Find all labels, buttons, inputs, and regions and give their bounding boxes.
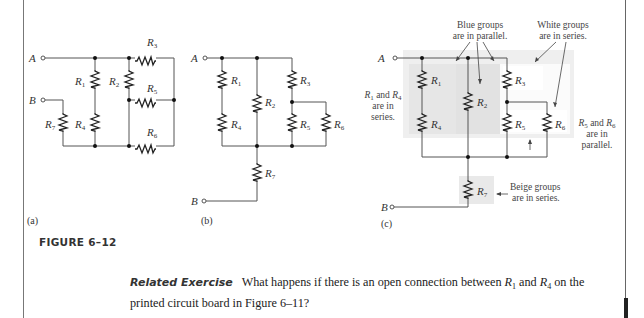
circuit-figure: A B R3 R1 R2 R5 R7 R4 R6 (a) [0,0,644,240]
panel-label-b: (b) [201,215,213,227]
figure-caption: FIGURE 6–12 [39,236,117,248]
related-exercise-label: Related Exercise [130,276,233,289]
r5-r6-note-line3: parallel. [582,140,613,150]
circuit-panel-c: A B R1 R4 R2 R3 R5 R6 R7 Blue groups are… [363,20,616,230]
r1-subscript: 1 [512,282,516,291]
svg-text:R2: R2 [264,96,276,110]
blue-groups-note-line1: Blue groups [457,20,503,30]
svg-text:R1: R1 [230,74,242,88]
svg-text:R6: R6 [146,126,158,140]
r1-r4-note-line2: are in [372,101,394,111]
r1-r4-note-line3: series. [371,112,395,122]
panel-label-c: (c) [381,218,392,230]
white-groups-note-line1: White groups [537,20,589,30]
svg-text:R2: R2 [108,75,120,89]
svg-text:R3: R3 [146,36,158,50]
svg-text:R5: R5 [146,82,158,96]
blue-groups-note-line2: are in parallel. [453,31,508,41]
svg-text:R6: R6 [333,118,345,132]
svg-text:A: A [28,52,36,64]
svg-text:B: B [29,94,36,106]
r5-r6-note-line2: are in [586,129,608,139]
beige-groups-note-line2: are in series. [512,193,560,203]
white-groups-note-line2: are in series. [539,31,587,41]
related-exercise-text-before: What happens if there is an open connect… [242,275,502,289]
svg-text:A: A [190,52,198,64]
svg-text:R4: R4 [74,118,86,132]
circuit-panel-b: A B R1 R4 R2 R3 R5 R6 R7 (b) [190,52,345,227]
page-edge-tab [624,298,628,318]
svg-text:R1: R1 [74,75,86,89]
svg-text:R4: R4 [230,118,242,132]
circuit-panel-a: A B R3 R1 R2 R5 R7 R4 R6 (a) [27,36,176,227]
svg-text:B: B [191,195,198,207]
beige-groups-note-line1: Beige groups [510,182,561,192]
related-exercise: Related Exercise What happens if there i… [130,274,620,311]
r1-symbol: R [505,275,512,289]
r4-subscript: 4 [547,282,551,291]
textbook-page: A B R3 R1 R2 R5 R7 R4 R6 (a) [0,0,644,318]
svg-text:R3: R3 [299,74,311,88]
svg-text:A: A [377,52,385,64]
panel-label-a: (a) [27,215,38,227]
svg-text:R7: R7 [264,167,276,181]
svg-text:B: B [381,201,388,213]
svg-text:R7: R7 [44,118,56,132]
svg-text:R5: R5 [299,118,311,132]
and-word: and [519,275,537,289]
